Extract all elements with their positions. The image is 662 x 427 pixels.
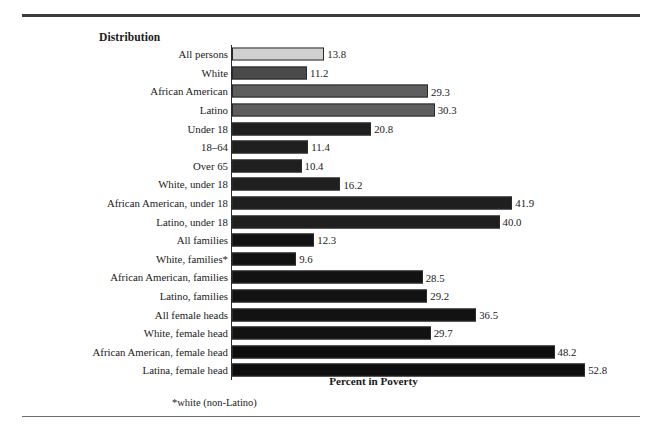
category-label: African American, female head — [93, 346, 229, 357]
data-bar — [232, 66, 307, 79]
bar-with-value: 40.0 — [232, 215, 522, 228]
category-label: Latino — [200, 105, 228, 116]
bar-with-value: 29.2 — [232, 290, 449, 303]
category-label: White — [202, 67, 228, 78]
bar-with-value: 41.9 — [232, 197, 534, 210]
chart-footnote: *white (non-Latino) — [172, 397, 257, 408]
top-divider-rule — [22, 14, 640, 17]
bar-value-label: 41.9 — [512, 198, 534, 209]
chart-row: 18–6411.4 — [0, 138, 662, 157]
bar-value-label: 36.5 — [476, 309, 498, 320]
bar-value-label: 29.3 — [428, 86, 450, 97]
data-bar — [232, 290, 427, 303]
data-bar — [232, 104, 435, 117]
poverty-bar-chart-figure: Distribution All persons13.8White11.2Afr… — [0, 0, 662, 427]
category-label: African American, families — [110, 272, 228, 283]
bar-with-value: 20.8 — [232, 122, 393, 135]
bar-with-value: 11.2 — [232, 66, 328, 79]
bar-value-label: 29.7 — [431, 328, 453, 339]
bar-value-label: 11.2 — [307, 67, 329, 78]
bar-with-value: 29.3 — [232, 85, 450, 98]
bar-with-value: 9.6 — [232, 252, 313, 265]
bar-value-label: 16.2 — [340, 179, 362, 190]
chart-row: All persons13.8 — [0, 45, 662, 64]
chart-row: White, female head29.7 — [0, 324, 662, 343]
data-bar — [232, 122, 371, 135]
chart-row: White11.2 — [0, 64, 662, 83]
data-bar — [232, 252, 296, 265]
bar-value-label: 9.6 — [296, 253, 313, 264]
data-bar — [232, 85, 428, 98]
category-label: Latino, families — [160, 291, 228, 302]
bar-with-value: 13.8 — [232, 48, 346, 61]
category-label: 18–64 — [201, 142, 228, 153]
bar-value-label: 29.2 — [427, 291, 449, 302]
chart-plot-area: All persons13.8White11.2African American… — [0, 45, 662, 380]
bar-value-label: 40.0 — [500, 216, 522, 227]
bar-value-label: 11.4 — [308, 142, 330, 153]
category-label: Latino, under 18 — [156, 216, 228, 227]
data-bar — [232, 159, 302, 172]
bar-with-value: 16.2 — [232, 178, 362, 191]
category-label: African American — [150, 86, 228, 97]
bar-value-label: 28.5 — [423, 272, 445, 283]
data-bar — [232, 271, 423, 284]
chart-row: All families12.3 — [0, 231, 662, 250]
category-label: All female heads — [155, 309, 228, 320]
chart-row: Latino30.3 — [0, 101, 662, 120]
bar-with-value: 29.7 — [232, 327, 453, 340]
data-bar — [232, 345, 555, 358]
data-bar — [232, 48, 324, 61]
category-label: Under 18 — [188, 123, 228, 134]
chart-row: White, under 1816.2 — [0, 175, 662, 194]
chart-row: Under 1820.8 — [0, 119, 662, 138]
bar-value-label: 10.4 — [302, 160, 324, 171]
bar-with-value: 28.5 — [232, 271, 445, 284]
category-label: All persons — [179, 49, 228, 60]
data-bar — [232, 308, 476, 321]
chart-row: African American, under 1841.9 — [0, 194, 662, 213]
category-label: White, female head — [144, 328, 228, 339]
chart-row: Latino, families29.2 — [0, 287, 662, 306]
data-bar — [232, 234, 314, 247]
bar-with-value: 10.4 — [232, 159, 324, 172]
data-bar — [232, 215, 500, 228]
bar-with-value: 30.3 — [232, 104, 457, 117]
bar-value-label: 20.8 — [371, 123, 393, 134]
bar-with-value: 11.4 — [232, 141, 330, 154]
data-bar — [232, 327, 431, 340]
chart-row: Latino, under 1840.0 — [0, 212, 662, 231]
bar-value-label: 12.3 — [314, 235, 336, 246]
chart-row: Over 6510.4 — [0, 157, 662, 176]
category-label: White, under 18 — [158, 179, 228, 190]
category-label: White, families* — [156, 253, 228, 264]
bar-with-value: 12.3 — [232, 234, 336, 247]
chart-row: All female heads36.5 — [0, 305, 662, 324]
bar-value-label: 48.2 — [555, 346, 577, 357]
chart-row: African American29.3 — [0, 82, 662, 101]
bottom-divider-rule — [22, 416, 640, 417]
category-label: All families — [177, 235, 228, 246]
bar-value-label: 13.8 — [324, 49, 346, 60]
data-bar — [232, 178, 340, 191]
distribution-column-header: Distribution — [99, 31, 160, 43]
chart-row: African American, female head48.2 — [0, 343, 662, 362]
chart-row: African American, families28.5 — [0, 268, 662, 287]
bar-with-value: 48.2 — [232, 345, 576, 358]
data-bar — [232, 197, 512, 210]
data-bar — [232, 141, 308, 154]
bar-with-value: 36.5 — [232, 308, 498, 321]
chart-row: White, families*9.6 — [0, 250, 662, 269]
category-label: African American, under 18 — [107, 198, 228, 209]
x-axis-title: Percent in Poverty — [0, 375, 662, 387]
category-label: Over 65 — [193, 160, 228, 171]
bar-value-label: 30.3 — [435, 105, 457, 116]
